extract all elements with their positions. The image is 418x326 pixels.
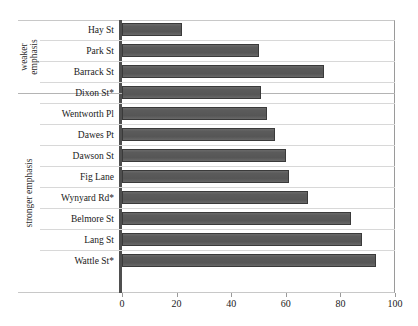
- bar-track: [122, 41, 395, 62]
- bar: [122, 254, 376, 267]
- bar: [122, 212, 351, 225]
- x-axis-tick-label: 60: [266, 298, 306, 309]
- x-axis-tick: [122, 293, 123, 297]
- category-label: Wynyard Rd*: [40, 188, 118, 209]
- x-axis-tick-label: 0: [102, 298, 142, 309]
- bar: [122, 23, 182, 36]
- bar: [122, 44, 259, 57]
- table-row: Wentworth Pl: [40, 104, 395, 125]
- x-axis-tick-label: 40: [211, 298, 251, 309]
- category-rows: Hay StPark StBarrack StDixon St*Wentwort…: [40, 20, 395, 293]
- x-axis-tick-label: 80: [320, 298, 360, 309]
- x-axis-tick: [340, 293, 341, 297]
- bar: [122, 170, 289, 183]
- category-label: Wattle St*: [40, 251, 118, 272]
- bar-track: [122, 209, 395, 230]
- table-row: Belmore St: [40, 209, 395, 230]
- group-label-column: weaker emphasis stronger emphasis: [18, 20, 40, 293]
- category-label: Hay St: [40, 20, 118, 41]
- x-axis-tick: [231, 293, 232, 297]
- bar: [122, 107, 267, 120]
- table-row: Park St: [40, 41, 395, 62]
- x-axis-tick: [177, 293, 178, 297]
- table-row: Fig Lane: [40, 167, 395, 188]
- category-label: Park St: [40, 41, 118, 62]
- x-axis-tick-label: 100: [375, 298, 415, 309]
- bar-track: [122, 20, 395, 41]
- bar-track: [122, 167, 395, 188]
- group-label-weaker-emphasis: weaker emphasis: [18, 20, 40, 93]
- table-row: Wynyard Rd*: [40, 188, 395, 209]
- x-axis: 020406080100: [122, 293, 395, 321]
- table-row: Wattle St*: [40, 251, 395, 272]
- category-label: Barrack St: [40, 62, 118, 83]
- bar: [122, 191, 308, 204]
- bar: [122, 86, 261, 99]
- bar: [122, 233, 362, 246]
- bar: [122, 65, 324, 78]
- bar-track: [122, 83, 395, 104]
- category-label: Wentworth Pl: [40, 104, 118, 125]
- table-row: Hay St: [40, 20, 395, 41]
- cut-off-title: [0, 0, 418, 5]
- bar-track: [122, 251, 395, 272]
- x-axis-tick: [286, 293, 287, 297]
- table-row: Barrack St: [40, 62, 395, 83]
- bar: [122, 149, 286, 162]
- table-row: Dawes Pt: [40, 125, 395, 146]
- category-label: Dawson St: [40, 146, 118, 167]
- category-label: Dawes Pt: [40, 125, 118, 146]
- category-label: Lang St: [40, 230, 118, 251]
- x-axis-tick: [395, 293, 396, 297]
- bar-track: [122, 62, 395, 83]
- table-row: Dixon St*: [40, 83, 395, 104]
- bar-track: [122, 230, 395, 251]
- bar-track: [122, 188, 395, 209]
- table-row: Lang St: [40, 230, 395, 251]
- bar-track: [122, 125, 395, 146]
- bar: [122, 128, 275, 141]
- category-label: Dixon St*: [40, 83, 118, 104]
- x-axis-tick-label: 20: [157, 298, 197, 309]
- group-label-stronger-emphasis: stronger emphasis: [18, 93, 40, 293]
- bar-track: [122, 104, 395, 125]
- category-label: Fig Lane: [40, 167, 118, 188]
- bar-chart: weaker emphasis stronger emphasis Hay St…: [0, 0, 418, 326]
- bar-track: [122, 146, 395, 167]
- category-label: Belmore St: [40, 209, 118, 230]
- table-row: Dawson St: [40, 146, 395, 167]
